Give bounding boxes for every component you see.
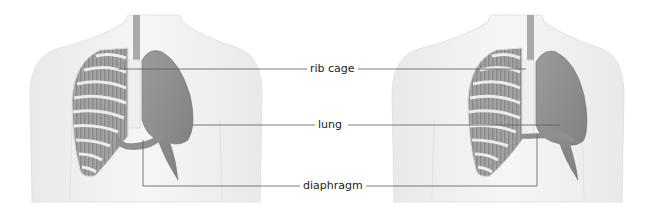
right-torso [392,15,624,202]
label-rib-cage: rib cage [307,62,358,75]
left-torso [30,15,262,202]
label-diaphragm: diaphragm [300,179,366,192]
breathing-diagram: rib cage lung diaphragm [0,0,656,218]
label-lung: lung [315,118,345,131]
